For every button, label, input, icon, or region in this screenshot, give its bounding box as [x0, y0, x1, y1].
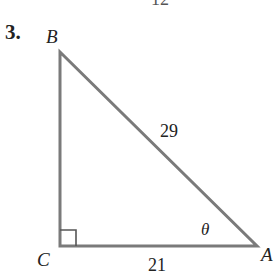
right-triangle-figure: [0, 0, 276, 278]
hypotenuse-length: 29: [160, 122, 178, 140]
vertex-label-a: A: [261, 245, 273, 264]
adjacent-side-length: 21: [148, 256, 166, 274]
vertex-label-c: C: [37, 250, 50, 269]
vertex-label-b: B: [46, 27, 58, 46]
angle-theta-label: θ: [201, 221, 209, 238]
